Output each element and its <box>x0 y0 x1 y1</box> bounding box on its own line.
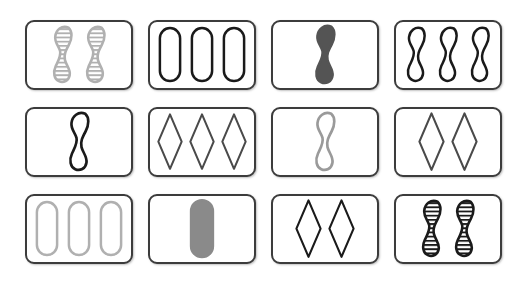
set-game-board <box>0 0 526 283</box>
oval-symbol-icon <box>187 197 217 260</box>
set-card-row2-col4[interactable] <box>394 107 502 177</box>
squiggle-symbol-icon <box>417 198 446 259</box>
squiggle-symbol-icon <box>450 198 479 259</box>
set-card-row2-col1[interactable] <box>25 107 133 177</box>
set-card-row3-col4[interactable] <box>394 194 502 264</box>
oval-symbol-icon <box>220 25 248 84</box>
diamond-symbol-icon <box>188 112 216 171</box>
diamond-symbol-icon <box>220 112 248 171</box>
set-card-row2-col2[interactable] <box>148 107 256 177</box>
diamond-symbol-icon <box>327 198 356 259</box>
oval-symbol-icon <box>33 199 61 258</box>
squiggle-symbol-icon <box>310 110 340 173</box>
squiggle-symbol-icon <box>466 25 494 84</box>
set-card-row1-col3[interactable] <box>271 20 379 90</box>
squiggle-symbol-icon <box>48 24 77 85</box>
squiggle-symbol-icon <box>81 24 110 85</box>
oval-symbol-icon <box>188 25 216 84</box>
set-card-row1-col2[interactable] <box>148 20 256 90</box>
set-card-row3-col2[interactable] <box>148 194 256 264</box>
squiggle-symbol-icon <box>434 25 462 84</box>
diamond-symbol-icon <box>294 198 323 259</box>
squiggle-symbol-icon <box>310 23 340 86</box>
card-grid <box>25 20 501 265</box>
squiggle-symbol-icon <box>402 25 430 84</box>
diamond-symbol-icon <box>417 111 446 172</box>
set-card-row2-col3[interactable] <box>271 107 379 177</box>
oval-symbol-icon <box>97 199 125 258</box>
diamond-symbol-icon <box>450 111 479 172</box>
set-card-row1-col4[interactable] <box>394 20 502 90</box>
oval-symbol-icon <box>156 25 184 84</box>
oval-symbol-icon <box>65 199 93 258</box>
set-card-row3-col1[interactable] <box>25 194 133 264</box>
set-card-row1-col1[interactable] <box>25 20 133 90</box>
squiggle-symbol-icon <box>64 110 94 173</box>
set-card-row3-col3[interactable] <box>271 194 379 264</box>
diamond-symbol-icon <box>156 112 184 171</box>
